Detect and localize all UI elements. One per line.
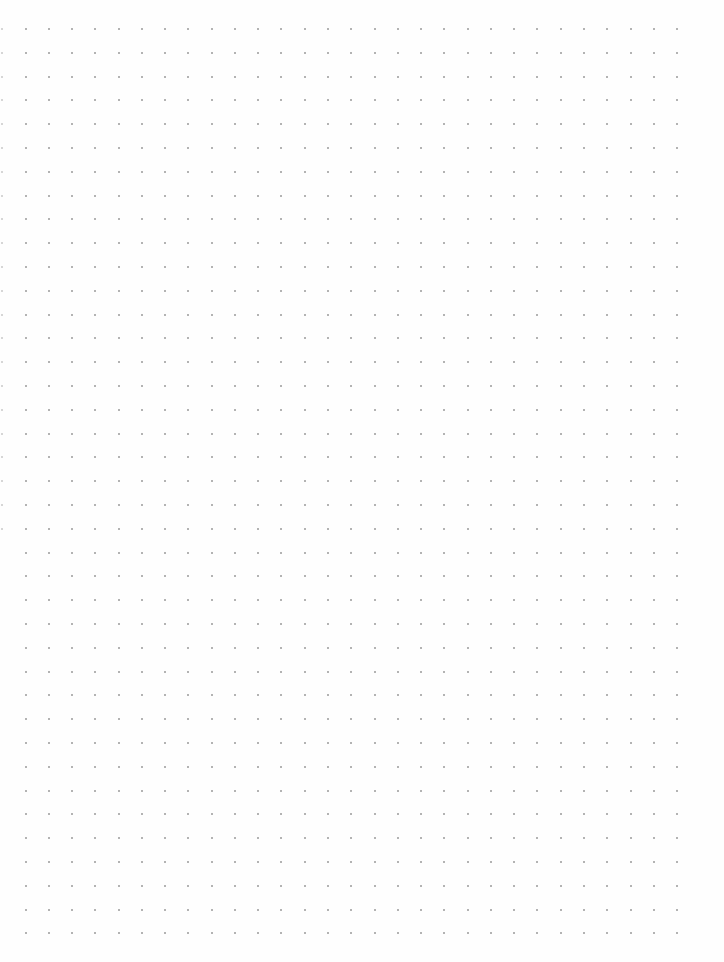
- grid-dot: [467, 885, 469, 887]
- grid-dot: [327, 314, 329, 316]
- grid-dot: [443, 623, 445, 625]
- grid-dot: [467, 790, 469, 792]
- grid-dot: [94, 671, 96, 673]
- grid-dot: [94, 813, 96, 815]
- grid-dot: [420, 171, 422, 173]
- grid-dot: [443, 718, 445, 720]
- grid-dot: [350, 218, 352, 220]
- grid-dot: [350, 694, 352, 696]
- grid-dot: [118, 195, 120, 197]
- grid-dot: [490, 361, 492, 363]
- grid-dot: [304, 575, 306, 577]
- grid-dot: [350, 195, 352, 197]
- grid-dot: [94, 242, 96, 244]
- grid-dot: [118, 813, 120, 815]
- grid-dot: [25, 813, 27, 815]
- grid-dot: [164, 766, 166, 768]
- grid-dot: [350, 456, 352, 458]
- grid-dot: [71, 694, 73, 696]
- grid-dot: [513, 671, 515, 673]
- grid-dot: [397, 742, 399, 744]
- grid-dot: [118, 147, 120, 149]
- grid-dot: [94, 337, 96, 339]
- grid-dot: [467, 409, 469, 411]
- grid-dot: [467, 909, 469, 911]
- grid-dot: [304, 242, 306, 244]
- grid-dot: [118, 123, 120, 125]
- grid-dot: [560, 837, 562, 839]
- grid-dot: [327, 480, 329, 482]
- grid-dot: [25, 718, 27, 720]
- grid-dot: [676, 861, 678, 863]
- grid-dot: [118, 504, 120, 506]
- grid-dot: [374, 742, 376, 744]
- grid-dot: [94, 932, 96, 934]
- grid-dot: [94, 742, 96, 744]
- grid-dot: [234, 290, 236, 292]
- grid-dot: [234, 456, 236, 458]
- grid-dot: [630, 52, 632, 54]
- grid-dot: [164, 599, 166, 601]
- grid-dot: [350, 52, 352, 54]
- grid-dot: [118, 433, 120, 435]
- grid-dot: [630, 147, 632, 149]
- grid-dot: [420, 885, 422, 887]
- grid-dot: [25, 409, 27, 411]
- grid-dot: [653, 718, 655, 720]
- grid-dot: [280, 28, 282, 30]
- grid-dot: [374, 76, 376, 78]
- grid-dot: [304, 52, 306, 54]
- grid-dot: [211, 76, 213, 78]
- grid-dot: [397, 385, 399, 387]
- grid-dot: [513, 694, 515, 696]
- edge-dot: [1, 504, 3, 506]
- grid-dot: [443, 456, 445, 458]
- grid-dot: [304, 28, 306, 30]
- grid-dot: [443, 314, 445, 316]
- grid-dot: [653, 337, 655, 339]
- grid-dot: [630, 480, 632, 482]
- grid-dot: [211, 314, 213, 316]
- grid-dot: [676, 99, 678, 101]
- grid-dot: [350, 790, 352, 792]
- grid-dot: [327, 242, 329, 244]
- grid-dot: [443, 909, 445, 911]
- grid-dot: [187, 242, 189, 244]
- grid-dot: [25, 147, 27, 149]
- grid-dot: [606, 694, 608, 696]
- grid-dot: [234, 932, 236, 934]
- grid-dot: [234, 718, 236, 720]
- grid-dot: [397, 76, 399, 78]
- edge-dot: [1, 28, 3, 30]
- grid-dot: [141, 123, 143, 125]
- grid-dot: [234, 790, 236, 792]
- grid-dot: [583, 28, 585, 30]
- grid-dot: [513, 885, 515, 887]
- grid-dot: [280, 337, 282, 339]
- grid-dot: [280, 361, 282, 363]
- grid-dot: [583, 242, 585, 244]
- grid-dot: [187, 671, 189, 673]
- grid-dot: [606, 813, 608, 815]
- grid-dot: [257, 290, 259, 292]
- grid-dot: [118, 456, 120, 458]
- grid-dot: [71, 861, 73, 863]
- grid-dot: [71, 837, 73, 839]
- grid-dot: [513, 718, 515, 720]
- grid-dot: [164, 528, 166, 530]
- grid-dot: [234, 52, 236, 54]
- grid-dot: [443, 290, 445, 292]
- grid-dot: [513, 837, 515, 839]
- grid-dot: [141, 361, 143, 363]
- grid-dot: [374, 837, 376, 839]
- grid-dot: [187, 766, 189, 768]
- grid-dot: [443, 599, 445, 601]
- grid-dot: [257, 504, 259, 506]
- grid-dot: [536, 123, 538, 125]
- grid-dot: [187, 195, 189, 197]
- edge-dot: [1, 456, 3, 458]
- grid-dot: [280, 671, 282, 673]
- grid-dot: [653, 266, 655, 268]
- grid-dot: [606, 409, 608, 411]
- grid-dot: [257, 195, 259, 197]
